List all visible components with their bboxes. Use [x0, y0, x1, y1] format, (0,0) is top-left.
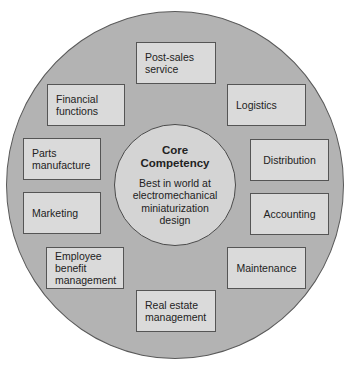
core-desc-line-1: Best in world at — [116, 177, 234, 190]
activity-label: Post-sales service — [145, 51, 194, 75]
activity-box-logistics: Logistics — [227, 84, 306, 126]
activity-label: Distribution — [263, 154, 316, 166]
activity-label: Accounting — [264, 208, 316, 220]
activity-box-post-sales-service: Post-sales service — [136, 42, 216, 84]
core-desc-line-2: electromechanical — [116, 189, 234, 202]
core-desc-line-4: design — [116, 214, 234, 227]
core-competency-diagram: Core Competency Best in world at electro… — [0, 0, 350, 369]
core-competency-description: Best in world at electromechanical minia… — [116, 177, 234, 227]
core-title-line-1: Core — [120, 144, 230, 157]
activity-box-accounting: Accounting — [250, 193, 329, 235]
activity-label: Parts manufacture — [32, 147, 90, 171]
activity-box-employee-benefit-management: Employee benefit management — [46, 247, 124, 289]
activity-box-maintenance: Maintenance — [227, 247, 306, 289]
activity-label: Employee benefit management — [55, 250, 116, 286]
core-competency-title: Core Competency — [120, 144, 230, 170]
activity-box-distribution: Distribution — [250, 139, 329, 181]
activity-box-financial-functions: Financial functions — [47, 84, 125, 126]
core-competency-circle: Core Competency Best in world at electro… — [114, 124, 236, 246]
activity-label: Logistics — [236, 99, 277, 111]
core-title-line-2: Competency — [120, 157, 230, 170]
activity-label: Financial functions — [56, 93, 98, 117]
activity-box-marketing: Marketing — [23, 192, 101, 234]
activity-box-parts-manufacture: Parts manufacture — [23, 138, 101, 180]
activity-label: Real estate management — [145, 299, 206, 323]
activity-label: Marketing — [32, 207, 78, 219]
activity-box-real-estate-management: Real estate management — [136, 290, 216, 332]
activity-label: Maintenance — [236, 262, 296, 274]
core-desc-line-3: miniaturization — [116, 202, 234, 215]
